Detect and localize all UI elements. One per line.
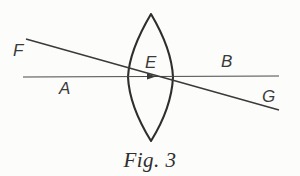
figure-container: F A E B G Fig. 3 [0,0,300,176]
label-b: B [221,53,232,70]
oblique-ray [26,39,279,110]
figure-caption: Fig. 3 [0,148,300,173]
label-g: G [262,88,275,105]
label-f: F [13,42,23,59]
label-e: E [145,54,156,71]
label-a: A [59,80,70,97]
